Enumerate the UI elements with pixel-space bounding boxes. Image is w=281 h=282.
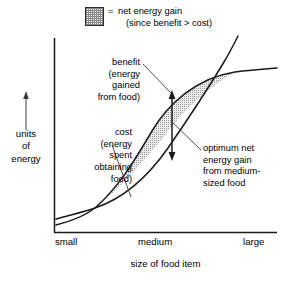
y-axis-label: units of energy [2, 128, 50, 165]
net-energy-gain-chart: = net energy gain (since benefit > cost) [0, 0, 281, 282]
optimum-label: optimum net energy gain from medium- siz… [203, 143, 281, 190]
benefit-label: benefit (energy gained from food) [56, 57, 140, 104]
cost-label: cost (energy spent obtaining food) [40, 127, 132, 186]
units-axis-arrow [23, 91, 29, 130]
optimum-leader-line [171, 121, 201, 150]
x-axis-label: size of food item [54, 258, 277, 269]
benefit-leader-line [143, 64, 171, 93]
x-tick-large: large [243, 236, 264, 247]
x-tick-medium: medium [138, 236, 172, 247]
x-tick-small: small [55, 236, 77, 247]
